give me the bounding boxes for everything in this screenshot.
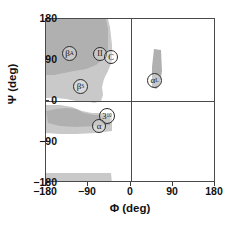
label-alpha-L-sub: L bbox=[155, 78, 158, 84]
xticklabel-90: 90 bbox=[166, 185, 178, 197]
yticklabel-90: 90 bbox=[45, 53, 57, 65]
phi-zero-line bbox=[131, 19, 132, 181]
yticklabel-180: 180 bbox=[39, 12, 57, 24]
label-C: C bbox=[104, 50, 118, 64]
label-polyproline-II-text: II bbox=[97, 50, 102, 58]
label-alpha-L: αL bbox=[147, 73, 162, 88]
x-axis-title: Φ (deg) bbox=[45, 202, 215, 214]
xticklabel-180: 180 bbox=[205, 185, 223, 197]
yticklabel-neg90: −90 bbox=[39, 135, 57, 147]
y-axis-title: Ψ (deg) bbox=[6, 34, 18, 134]
label-beta-A-sub: A bbox=[70, 51, 74, 57]
ytick-0 bbox=[45, 100, 49, 101]
xticklabel-0: 0 bbox=[127, 185, 133, 197]
ramachandran-plot-figure: βA βS II C αL 310 α −180 −90 0 90 180 bbox=[0, 0, 237, 225]
label-alpha-R: α bbox=[92, 119, 106, 133]
xticklabel-neg90: −90 bbox=[78, 185, 96, 197]
label-C-text: C bbox=[108, 53, 114, 62]
label-three-ten-sub: 10 bbox=[106, 113, 111, 118]
allowed-regions-layer bbox=[46, 19, 214, 181]
psi-zero-line bbox=[46, 101, 214, 102]
plot-area: βA βS II C αL 310 α bbox=[45, 18, 215, 182]
yticklabel-neg180: −180 bbox=[33, 176, 57, 188]
label-beta-S: βS bbox=[73, 79, 88, 94]
label-beta-A: βA bbox=[62, 46, 77, 61]
yticklabel-0: 0 bbox=[51, 94, 57, 106]
label-beta-S-sub: S bbox=[81, 84, 84, 90]
label-alpha-R-text: α bbox=[97, 122, 102, 131]
